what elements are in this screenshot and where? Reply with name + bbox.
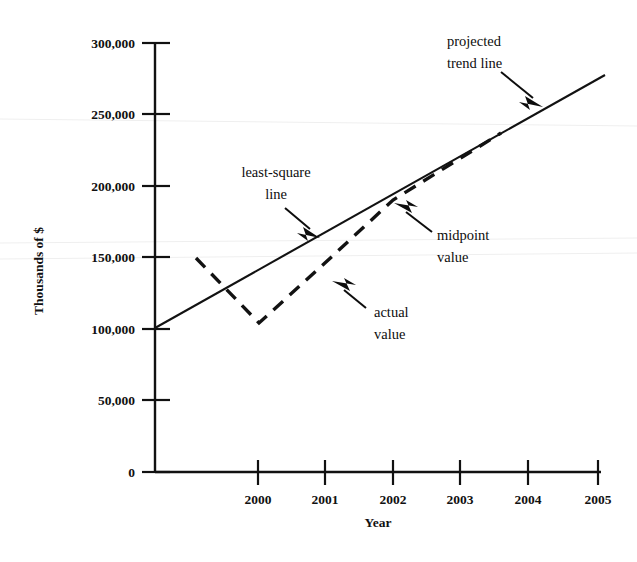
annotation-projected-trend-line-text-2: trend line [447, 55, 502, 71]
y-tick-labels: 300,000 250,000 200,000 150,000 100,000 … [91, 36, 135, 480]
x-tick-label-2000: 2000 [245, 492, 272, 507]
y-tick-label-200000: 200,000 [91, 179, 135, 194]
annotation-least-square-line-arrow-icon [297, 227, 320, 241]
annotation-least-square-line: least-square line [241, 164, 320, 241]
series-least-square-line [155, 75, 605, 328]
annotation-least-square-line-leader [285, 208, 310, 229]
annotation-projected-trend-line-text-1: projected [447, 33, 502, 49]
annotation-least-square-line-text-2: line [265, 186, 287, 202]
annotation-actual-value-text-2: value [374, 326, 405, 342]
y-tick-label-0: 0 [128, 465, 135, 480]
x-tick-label-2002: 2002 [380, 492, 407, 507]
annotation-midpoint-value-text-1: midpoint [437, 227, 489, 243]
annotation-actual-value-leader [344, 290, 366, 308]
x-tick-label-2004: 2004 [515, 492, 542, 507]
x-tick-labels: 2000 2001 2002 2003 2004 2005 [245, 492, 612, 507]
annotation-actual-value-text-1: actual [374, 304, 409, 320]
annotation-actual-value-arrow-icon [332, 278, 356, 291]
y-tick-label-150000: 150,000 [91, 250, 135, 265]
x-tick-label-2003: 2003 [447, 492, 474, 507]
annotation-midpoint-value-arrow-icon [394, 200, 418, 213]
annotation-midpoint-value-text-2: value [437, 249, 468, 265]
annotation-projected-trend-line-arrow-icon [519, 96, 543, 110]
x-axis [155, 460, 601, 485]
annotation-actual-value: actual value [332, 278, 409, 342]
chart-figure: 300,000 250,000 200,000 150,000 100,000 … [0, 0, 637, 562]
x-tick-label-2005: 2005 [585, 492, 612, 507]
y-tick-label-100000: 100,000 [91, 322, 135, 337]
annotation-projected-trend-line-leader [501, 72, 533, 98]
x-tick-label-2001: 2001 [312, 492, 339, 507]
annotation-midpoint-value-leader [406, 212, 432, 232]
x-axis-title: Year [365, 515, 392, 530]
annotation-least-square-line-text-1: least-square [241, 164, 310, 180]
annotation-projected-trend-line: projected trend line [447, 33, 543, 110]
y-tick-label-50000: 50,000 [98, 393, 135, 408]
y-tick-label-250000: 250,000 [91, 107, 135, 122]
line-chart-canvas: 300,000 250,000 200,000 150,000 100,000 … [0, 0, 637, 562]
y-axis-title: Thousands of $ [31, 227, 46, 315]
y-tick-label-300000: 300,000 [91, 36, 135, 51]
y-axis [142, 43, 170, 473]
